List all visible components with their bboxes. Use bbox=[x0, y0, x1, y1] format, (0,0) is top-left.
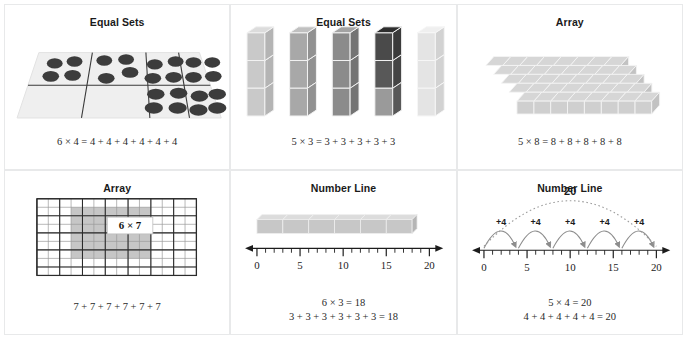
panel-equation: 5 × 8 = 8 + 8 + 8 + 8 + 8 bbox=[458, 136, 682, 147]
panel-equation-sum: 4 + 4 + 4 + 4 + 4 = 20 bbox=[458, 311, 682, 322]
svg-text:10: 10 bbox=[338, 259, 349, 271]
panel-number-line-bar[interactable]: Number Line 05101520 6 × 3 = 18 3 + 3 + … bbox=[230, 170, 456, 336]
panel-equation: 6 × 4 = 4 + 4 + 4 + 4 + 4 + 4 bbox=[5, 136, 229, 147]
svg-text:0: 0 bbox=[255, 259, 261, 271]
svg-text:+4: +4 bbox=[634, 216, 644, 226]
svg-text:20: 20 bbox=[651, 261, 662, 273]
svg-text:+4: +4 bbox=[496, 216, 506, 226]
grid-callout: 6 × 7 bbox=[107, 217, 153, 234]
svg-text:15: 15 bbox=[607, 261, 618, 273]
panel-equation: 5 × 3 = 3 + 3 + 3 + 3 + 3 bbox=[231, 136, 455, 147]
panel-array-cubes[interactable]: Array 5 × 8 = 8 + 8 + 8 + 8 + 8 bbox=[457, 4, 683, 170]
svg-text:20: 20 bbox=[564, 184, 576, 196]
panel-equation: 7 + 7 + 7 + 7 + 7 + 7 bbox=[5, 301, 229, 312]
panel-equal-sets-cubes[interactable]: Equal Sets bbox=[230, 4, 456, 170]
svg-text:+4: +4 bbox=[599, 216, 609, 226]
panel-number-line-jumps[interactable]: Number Line 05101520+4+4+4+4+420 5 × 4 =… bbox=[457, 170, 683, 336]
panel-equation-sum: 3 + 3 + 3 + 3 + 3 + 3 = 18 bbox=[231, 311, 455, 322]
svg-text:20: 20 bbox=[424, 259, 435, 271]
number-line-bar-illustration: 05101520 bbox=[231, 171, 455, 335]
svg-text:+4: +4 bbox=[565, 216, 575, 226]
svg-text:0: 0 bbox=[481, 261, 487, 273]
svg-text:+4: +4 bbox=[530, 216, 540, 226]
svg-text:15: 15 bbox=[381, 259, 392, 271]
panel-equal-sets-counters[interactable]: Equal Sets bbox=[4, 4, 230, 170]
svg-text:6 × 7: 6 × 7 bbox=[119, 219, 142, 231]
panel-array-grid[interactable]: Array 6 × 7 7 + 7 + 7 + 7 + 7 + 7 bbox=[4, 170, 230, 336]
number-line-jumps-illustration: 05101520+4+4+4+4+420 bbox=[458, 171, 682, 335]
svg-text:5: 5 bbox=[298, 259, 304, 271]
worksheet-sheet: Equal Sets bbox=[0, 0, 687, 339]
panel-equation-product: 5 × 4 = 20 bbox=[458, 297, 682, 308]
svg-text:10: 10 bbox=[564, 261, 575, 273]
panel-equation-product: 6 × 3 = 18 bbox=[231, 297, 455, 308]
svg-text:5: 5 bbox=[524, 261, 530, 273]
panel-grid: Equal Sets bbox=[4, 4, 683, 335]
